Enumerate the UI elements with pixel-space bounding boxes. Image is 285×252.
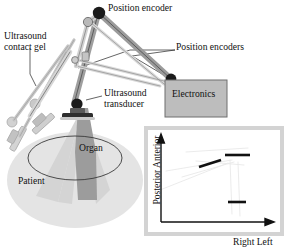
label-position-encoders: Position encoders [176, 42, 244, 53]
ultrasound-transducer-head [60, 108, 95, 120]
label-patient: Patient [18, 176, 45, 187]
leader-gel [30, 48, 36, 86]
reconstruction-plot-area [155, 133, 277, 227]
arm-link-lower [30, 52, 70, 116]
label-organ: Organ [79, 143, 103, 154]
y-axis-label-wrapper: Posterior Anterior [152, 122, 164, 218]
position-encoder-transducer [71, 98, 82, 109]
label-ultrasound-transducer: Ultrasound transducer [104, 88, 147, 109]
label-ultrasound-contact-gel: Ultrasound contact gel [4, 31, 47, 52]
y-axis-label: Posterior Anterior [152, 122, 163, 218]
joint-ball-mid [72, 57, 79, 64]
label-position-encoder: Position encoder [108, 3, 172, 14]
ultrasound-beam-cone [75, 108, 97, 200]
leader-transducer [86, 96, 102, 100]
label-electronics: Electronics [172, 89, 215, 100]
joint-ball-upper [83, 17, 92, 26]
joint-collar [82, 52, 89, 61]
position-encoder-top [93, 7, 105, 19]
x-axis-label: Right Left [233, 237, 273, 248]
ultrasound-contact-gel [60, 117, 95, 120]
